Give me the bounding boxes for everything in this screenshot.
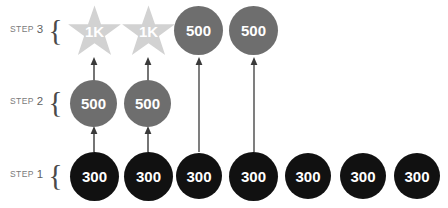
node-value: 300 bbox=[136, 169, 161, 184]
node-value: 500 bbox=[135, 96, 160, 111]
row-label-step-2: STEP 2 { bbox=[10, 95, 63, 107]
arrow-step1-to-step2-col1 bbox=[89, 126, 99, 152]
node-step3-col1[interactable]: 1K bbox=[67, 4, 122, 57]
node-step1-col7[interactable]: 300 bbox=[394, 153, 440, 199]
node-step3-col3[interactable]: 500 bbox=[174, 6, 223, 55]
step-number-3: 3 bbox=[37, 23, 43, 35]
node-value: 300 bbox=[186, 169, 211, 184]
node-value: 300 bbox=[241, 169, 266, 184]
node-value: 300 bbox=[404, 169, 429, 184]
step-word-3: STEP bbox=[10, 24, 34, 34]
node-step1-col4[interactable]: 300 bbox=[229, 152, 278, 201]
node-step2-col1[interactable]: 500 bbox=[70, 80, 117, 127]
step-number-2: 2 bbox=[37, 95, 43, 107]
node-value: 500 bbox=[241, 23, 266, 38]
node-step1-col3[interactable]: 300 bbox=[176, 153, 222, 199]
node-value: 500 bbox=[186, 23, 211, 38]
node-step1-col1[interactable]: 300 bbox=[70, 152, 119, 201]
node-step1-col6[interactable]: 300 bbox=[340, 153, 386, 199]
arrow-step1-to-step3-col3 bbox=[194, 57, 204, 152]
node-value: 1K bbox=[85, 24, 104, 39]
step-word-2: STEP bbox=[10, 96, 34, 106]
step-word-1: STEP bbox=[10, 169, 34, 179]
arrow-step1-to-step3-col4 bbox=[249, 57, 259, 152]
step-progression-diagram: STEP 3 { STEP 2 { STEP 1 { bbox=[0, 0, 448, 208]
step-number-1: 1 bbox=[37, 168, 43, 180]
node-step1-col5[interactable]: 300 bbox=[285, 153, 331, 199]
node-value: 300 bbox=[295, 169, 320, 184]
arrow-step1-to-step2-col2 bbox=[143, 126, 153, 152]
node-step2-col2[interactable]: 500 bbox=[124, 80, 171, 127]
node-step1-col2[interactable]: 300 bbox=[124, 152, 173, 201]
node-step3-col2[interactable]: 1K bbox=[121, 4, 176, 57]
node-value: 500 bbox=[81, 96, 106, 111]
node-step3-col4[interactable]: 500 bbox=[229, 6, 278, 55]
row-label-step-3: STEP 3 { bbox=[10, 23, 63, 35]
node-value: 1K bbox=[139, 24, 158, 39]
node-value: 300 bbox=[350, 169, 375, 184]
node-value: 300 bbox=[82, 169, 107, 184]
row-label-step-1: STEP 1 { bbox=[10, 168, 63, 180]
